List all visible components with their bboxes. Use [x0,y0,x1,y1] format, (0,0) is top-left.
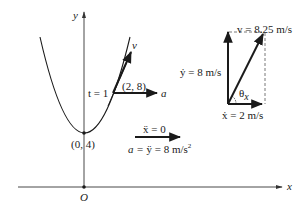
v-magnitude-label: v = 8.25 m/s [237,24,292,35]
x-axis-label: x [287,181,292,192]
velocity-label: v [132,40,137,51]
origin-point [82,185,86,189]
x-dot-label: ẋ = 2 m/s [222,110,263,121]
origin-label: O [80,192,88,203]
vertex-label: (0, 4) [71,139,95,150]
y-axis-label: y [73,10,78,21]
a-ydot-label: a = ÿ = 8 m/s2 [128,143,191,155]
angle-arc [232,96,236,104]
angle-label: θx [239,88,249,99]
time-label: t = 1 [88,88,108,99]
y-dot-label: ẏ = 8 m/s [180,67,221,78]
a-prefix: a = [128,143,146,155]
point-label: (2, 8) [122,81,146,92]
angle-subscript: x [244,91,248,102]
superscript: 2 [188,142,192,150]
acceleration-label: a [161,88,167,99]
x-ddot-label: ẍ = 0 [143,124,166,135]
y-ddot-value: ÿ = 8 m/s [146,143,187,155]
